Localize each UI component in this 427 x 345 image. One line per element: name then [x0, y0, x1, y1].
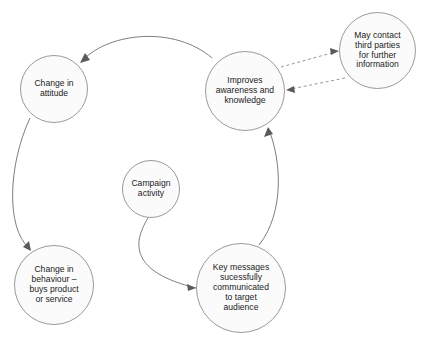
edge-third-parties-to-improves: [286, 78, 345, 93]
node-label: May contact third parties for further in…: [352, 31, 402, 71]
edge-path: [259, 130, 278, 245]
node-label: Change in behaviour – buys product or se…: [27, 265, 80, 305]
node-change-in-behaviour[interactable]: Change in behaviour – buys product or se…: [14, 245, 94, 325]
node-improves-awareness-and-knowledge[interactable]: Improves awareness and knowledge: [205, 51, 285, 131]
node-key-messages-communicated[interactable]: Key messages sucessfully communicated to…: [196, 243, 286, 333]
node-label: Change in attitude: [32, 79, 75, 99]
arrowhead-icon: [187, 284, 196, 291]
arrowhead-icon: [330, 48, 339, 55]
diagram-canvas: Change in attitude Improves awareness an…: [0, 0, 427, 345]
edge-path: [291, 78, 345, 89]
edge-improves-to-third-parties: [281, 48, 339, 67]
edge-campaign-to-key-messages: [139, 218, 196, 291]
node-change-in-attitude[interactable]: Change in attitude: [20, 55, 88, 123]
edge-path: [281, 52, 335, 67]
node-label: Key messages sucessfully communicated to…: [211, 263, 271, 313]
edge-path: [83, 36, 212, 60]
edge-path: [139, 218, 196, 288]
edge-improves-to-change-attitude: [80, 36, 212, 63]
arrowhead-icon: [264, 127, 273, 137]
node-may-contact-third-parties[interactable]: May contact third parties for further in…: [339, 12, 416, 89]
edge-key-messages-to-improves: [259, 127, 278, 245]
edge-path: [13, 118, 30, 248]
edge-change-attitude-to-change-behaviour: [13, 118, 31, 251]
node-label: Improves awareness and knowledge: [214, 76, 276, 106]
arrowhead-icon: [286, 86, 295, 93]
node-campaign-activity[interactable]: Campaign activity: [122, 160, 180, 218]
node-label: Campaign activity: [129, 179, 172, 199]
